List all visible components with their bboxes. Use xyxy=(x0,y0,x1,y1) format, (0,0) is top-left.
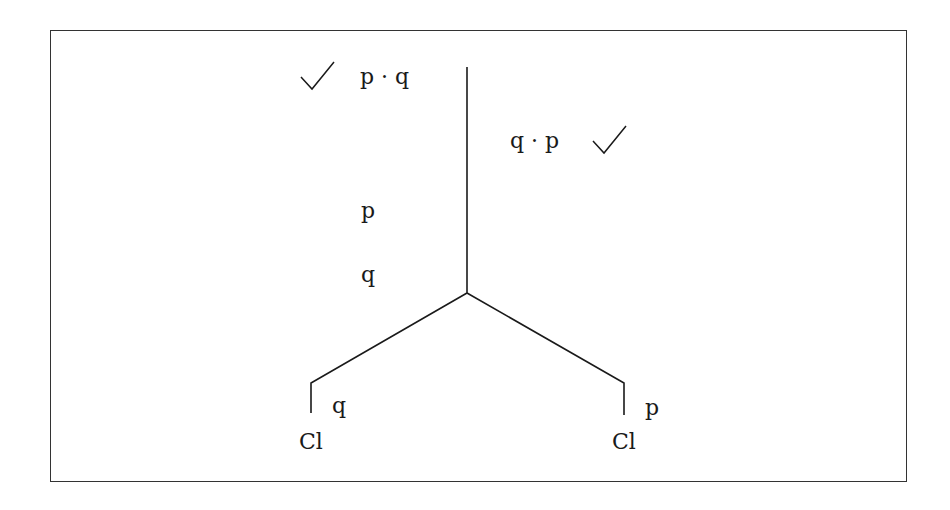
right-branch-formula: p xyxy=(645,397,659,419)
checkmark-icon xyxy=(300,60,336,92)
trunk-line-1-formula: p · q xyxy=(360,66,409,88)
tree-lines xyxy=(0,0,950,510)
left-branch-closure: Cl xyxy=(299,431,323,453)
right-branch-line xyxy=(467,293,624,415)
left-branch-formula: q xyxy=(332,395,346,417)
trunk-line-4-formula: q xyxy=(361,264,375,286)
checkmark-icon xyxy=(592,124,628,156)
trunk-line-2-formula: q · p xyxy=(510,130,559,152)
trunk-line-3-formula: p xyxy=(361,200,375,222)
right-branch-closure: Cl xyxy=(612,431,636,453)
